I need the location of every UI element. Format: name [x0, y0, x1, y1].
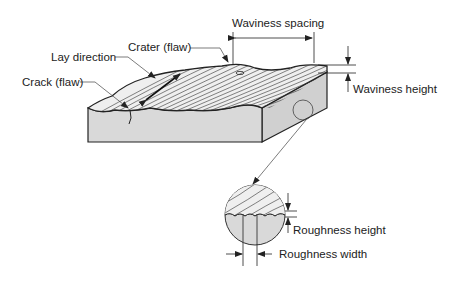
surface-texture-diagram [0, 0, 449, 283]
roughness-width-label: Roughness width [279, 249, 367, 261]
detail-circle-large [222, 182, 290, 245]
crater-label: Crater (flaw) [128, 42, 191, 54]
lay-direction-leader [115, 57, 155, 78]
crater-leader [190, 48, 228, 62]
waviness-height-label: Waviness height [353, 84, 437, 96]
workpiece-block [88, 60, 390, 142]
lay-direction-label: Lay direction [51, 52, 116, 64]
crack-label: Crack (flaw) [22, 77, 83, 89]
waviness-spacing-label: Waviness spacing [232, 18, 324, 30]
roughness-height-label: Roughness height [293, 225, 386, 237]
waviness-spacing-dimension [233, 32, 314, 65]
